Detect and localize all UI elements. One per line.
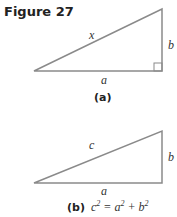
pythagorean-equation: c2 = a2 + b2	[91, 199, 149, 215]
triangle-b	[34, 131, 162, 183]
eq-equals: =	[100, 200, 114, 214]
eq-plus: +	[124, 200, 138, 214]
triangle-a-hypotenuse-label: x	[89, 28, 94, 43]
triangle-a-height-label: b	[168, 38, 174, 53]
triangle-a-base-label: a	[101, 73, 107, 88]
eq-exp-b: 2	[145, 199, 149, 208]
triangle-b-height-label: b	[168, 150, 174, 165]
triangle-a-caption: (a)	[94, 91, 111, 104]
triangle-a	[34, 9, 162, 71]
right-angle-marker	[154, 63, 162, 71]
triangle-b-caption: (b)	[67, 201, 85, 214]
triangle-b-hypotenuse-label: c	[89, 138, 94, 153]
triangle-b-base-label: a	[101, 184, 107, 199]
